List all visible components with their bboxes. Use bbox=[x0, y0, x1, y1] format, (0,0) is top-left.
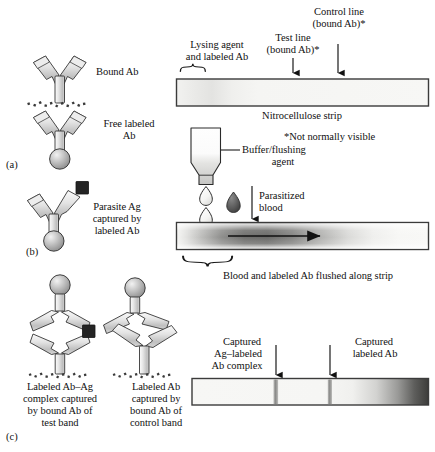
test-band bbox=[274, 379, 279, 404]
test-complex-arm-upper-left bbox=[30, 311, 59, 332]
test-complex-caption-line1: Labeled Ab–Ag bbox=[6, 381, 114, 393]
panel-letter-c: (c) bbox=[6, 431, 18, 442]
parasitized-blood-label-line1: Parasitized bbox=[259, 190, 305, 202]
test-complex-arm-lower-left bbox=[30, 334, 59, 355]
nitrocellulose-strip-top bbox=[177, 79, 429, 106]
lysing-agent-label-line2: and labeled Ab bbox=[172, 51, 262, 63]
parasite-ag-label-line1: Parasite Ag bbox=[70, 201, 164, 213]
control-complex-bottom-stem bbox=[140, 346, 150, 374]
captured-complex-label-line2: Ag–labeled bbox=[205, 348, 271, 360]
panel-letter-b: (b) bbox=[26, 246, 38, 257]
label-bead-control-complex bbox=[125, 278, 145, 298]
test-line-label-line1: Test line bbox=[251, 32, 335, 44]
control-complex-top-stem bbox=[130, 297, 140, 313]
free-labeled-ab-label-line1: Free labeled bbox=[92, 118, 166, 130]
control-line-label-line2: (bound Ab)* bbox=[296, 18, 382, 30]
parasite-antigen-square bbox=[76, 182, 89, 195]
captured-complex-label-line1: Captured bbox=[213, 336, 271, 348]
test-complex-bottom-stem bbox=[55, 354, 64, 374]
lysing-agent-brace bbox=[180, 64, 205, 72]
captured-complex-label-line3: Ab complex bbox=[203, 360, 271, 372]
label-bead-free-ab bbox=[50, 149, 70, 169]
lysing-agent-label-line1: Lysing agent bbox=[172, 39, 262, 51]
parasitized-blood-drop bbox=[227, 192, 240, 213]
test-complex-caption-line4: test band bbox=[6, 417, 114, 429]
test-complex-caption-line2: complex captured bbox=[6, 393, 114, 405]
figure-canvas: Bound Ab Free labeled Ab (a) Parasite Ag… bbox=[0, 0, 435, 452]
panel-letter-a: (a) bbox=[6, 159, 18, 170]
test-complex-antigen-square bbox=[83, 325, 96, 338]
parasite-ag-label-line2: captured by bbox=[70, 213, 164, 225]
test-band-complex-molecule bbox=[29, 275, 95, 379]
buffer-bottle bbox=[191, 128, 221, 185]
blood-flush-brace bbox=[183, 256, 232, 267]
nitrocellulose-strip-label: Nitrocellulose strip bbox=[222, 110, 382, 122]
bound-ab-molecule bbox=[27, 56, 86, 108]
label-bead-test-complex bbox=[50, 275, 70, 295]
label-bead-panelb bbox=[44, 231, 64, 251]
buffer-droplet-upper bbox=[200, 187, 213, 206]
parasitized-blood-label-line2: blood bbox=[259, 202, 283, 214]
control-complex-caption-line3: bound Ab of bbox=[117, 405, 195, 417]
control-complex-caption-line4: control band bbox=[117, 417, 195, 429]
buffer-label-line2: agent bbox=[242, 156, 324, 168]
test-line-label-line2: (bound Ab)* bbox=[251, 44, 335, 56]
captured-labeled-ab-label-line2: labeled Ab bbox=[340, 348, 410, 360]
control-complex-arm-right bbox=[138, 313, 170, 331]
free-labeled-ab-label-line2: Ab bbox=[92, 130, 166, 142]
nitrocellulose-strip-bottom bbox=[192, 379, 429, 406]
control-line-label-line1: Control line bbox=[296, 6, 382, 18]
control-complex-caption-line2: captured by bbox=[117, 393, 195, 405]
control-bound-ab-arm-left bbox=[113, 324, 144, 347]
test-complex-caption-line3: by bound Ab of bbox=[6, 405, 114, 417]
free-labeled-ab-molecule bbox=[34, 111, 87, 169]
control-complex-caption-line1: Labeled Ab bbox=[117, 381, 195, 393]
test-complex-top-stem bbox=[55, 294, 64, 311]
control-band bbox=[328, 379, 332, 404]
bound-ab-stem bbox=[55, 76, 65, 103]
bound-ab-label: Bound Ab bbox=[96, 66, 138, 78]
captured-labeled-ab-label-line1: Captured bbox=[344, 336, 404, 348]
parasite-ag-label-line3: labeled Ab bbox=[70, 225, 164, 237]
buffer-label-line1: Buffer/flushing bbox=[242, 144, 306, 156]
control-band-complex-molecule bbox=[104, 278, 178, 379]
not-normally-visible-footnote: *Not normally visible bbox=[284, 131, 375, 143]
blood-flushed-caption: Blood and labeled Ab flushed along strip bbox=[183, 270, 433, 282]
